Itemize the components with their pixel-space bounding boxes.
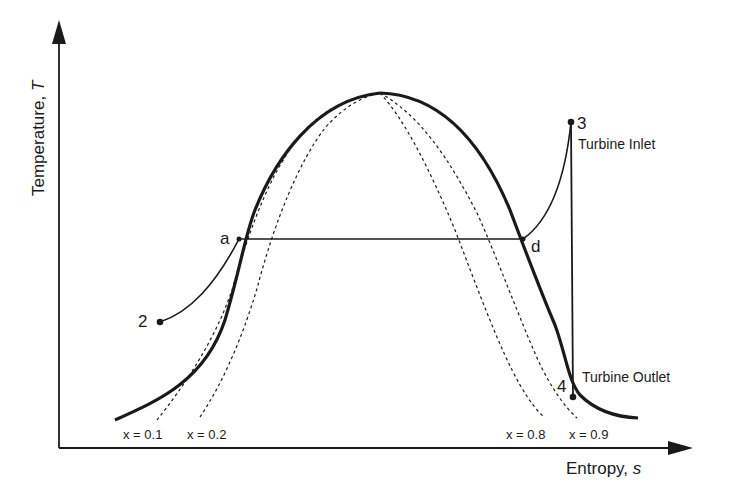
point-2-label: 2 <box>138 312 147 331</box>
cycle <box>160 122 573 397</box>
quality-label-0.1: x = 0.1 <box>123 427 162 442</box>
y-axis-title-text: Temperature, <box>29 91 48 196</box>
x-axis-symbol: s <box>633 459 642 478</box>
saturation-dome <box>115 93 638 420</box>
quality-label-0.8: x = 0.8 <box>506 427 545 442</box>
point-d-marker <box>521 237 526 242</box>
axes <box>52 20 693 455</box>
quality-label-0.9: x = 0.9 <box>569 427 608 442</box>
state-markers <box>157 119 577 401</box>
point-4-marker <box>570 394 577 401</box>
point-a-label: a <box>220 229 230 248</box>
turbine-inlet-annotation: Turbine Inlet <box>578 136 655 152</box>
y-axis-symbol: T <box>29 79 48 91</box>
point-3-marker <box>568 119 575 126</box>
point-a-marker <box>237 237 242 242</box>
x-axis-title-text: Entropy, <box>566 459 633 478</box>
process-d-3 <box>523 122 571 239</box>
x-axis-title: Entropy, s <box>566 459 642 478</box>
quality-line-0.9 <box>380 93 577 418</box>
y-axis-title: Temperature, T <box>29 79 48 196</box>
quality-line-0.2 <box>200 93 380 417</box>
point-4-label: 4 <box>557 377 566 396</box>
quality-line-0.8 <box>380 93 544 417</box>
quality-lines <box>157 93 577 420</box>
point-d-label: d <box>531 237 540 256</box>
x-axis-arrow-icon <box>668 441 693 455</box>
quality-line-0.1 <box>157 93 380 420</box>
point-2-marker <box>157 319 164 326</box>
turbine-outlet-annotation: Turbine Outlet <box>582 369 670 385</box>
ts-diagram: Temperature, T Entropy, s 2 a d 3 4 Turb… <box>0 0 729 501</box>
y-axis-arrow-icon <box>52 20 66 44</box>
process-3-4 <box>571 122 573 397</box>
quality-label-0.2: x = 0.2 <box>187 427 226 442</box>
point-3-label: 3 <box>577 114 586 133</box>
